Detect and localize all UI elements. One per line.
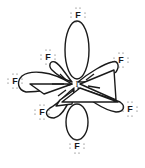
lone-pair-electron <box>45 49 46 50</box>
lone-pair-electron <box>75 21 76 22</box>
lone-pair-electron <box>12 87 13 88</box>
fluorine-axial-top: F <box>75 10 81 20</box>
lone-pair-electron <box>131 115 132 116</box>
lone-pair-electron <box>131 101 132 102</box>
lone-pair-electron <box>16 87 17 88</box>
lone-pair-electron <box>40 58 41 59</box>
lone-pair-electron <box>84 16 85 17</box>
fluorine-left: F <box>12 76 18 86</box>
fluorine-upper-left: F <box>45 52 51 62</box>
lone-pair-electron <box>49 49 50 50</box>
central-atom-label: I <box>76 79 79 89</box>
lone-pair-electron <box>69 143 70 144</box>
lone-pair-electron <box>43 118 44 119</box>
lone-pair-electron <box>136 106 137 107</box>
lone-pair-electron <box>70 12 71 13</box>
lone-pair-electron <box>122 66 123 67</box>
lone-pair-electron <box>84 12 85 13</box>
fluorine-upper-right: F <box>118 55 124 65</box>
lone-pair-electron <box>127 61 128 62</box>
lone-pair-electron <box>83 147 84 148</box>
lobe-axial-top <box>65 21 89 79</box>
lone-pair-electron <box>118 66 119 67</box>
lobe-axial-bottom <box>66 104 88 140</box>
lone-pair-electron <box>122 52 123 53</box>
lone-pair-electron <box>43 104 44 105</box>
lone-pair-electron <box>12 73 13 74</box>
lone-pair-electron <box>39 104 40 105</box>
lone-pair-electron <box>40 54 41 55</box>
lone-pair-electron <box>7 82 8 83</box>
lone-pair-electron <box>16 73 17 74</box>
lone-pair-electron <box>21 82 22 83</box>
lone-pair-electron <box>83 143 84 144</box>
lone-pair-electron <box>39 118 40 119</box>
lone-pair-electron <box>34 109 35 110</box>
fluorine-lower-left: F <box>39 107 45 117</box>
lone-pair-electron <box>7 78 8 79</box>
fluorine-axial-bottom: F <box>74 141 80 151</box>
lone-pair-electron <box>54 54 55 55</box>
lone-pair-electron <box>113 57 114 58</box>
lone-pair-electron <box>127 115 128 116</box>
lone-pair-electron <box>69 147 70 148</box>
lone-pair-electron <box>54 58 55 59</box>
lobe-left-wedge <box>30 84 72 94</box>
lone-pair-electron <box>79 7 80 8</box>
if7-orbital-diagram: I F F F F F F F <box>0 0 145 168</box>
lone-pair-electron <box>127 101 128 102</box>
lone-pair-electron <box>70 16 71 17</box>
lone-pair-electron <box>74 152 75 153</box>
lone-pair-electron <box>74 138 75 139</box>
lone-pair-electron <box>21 78 22 79</box>
lone-pair-electron <box>78 152 79 153</box>
lone-pair-electron <box>48 113 49 114</box>
lone-pair-electron <box>79 21 80 22</box>
lone-pair-electron <box>45 63 46 64</box>
lone-pair-electron <box>122 106 123 107</box>
lone-pair-electron <box>127 57 128 58</box>
lone-pair-electron <box>118 52 119 53</box>
lone-pair-electron <box>34 113 35 114</box>
lone-pair-electron <box>122 110 123 111</box>
lone-pair-electron <box>48 109 49 110</box>
lone-pair-electron <box>78 138 79 139</box>
lone-pair-electron <box>136 110 137 111</box>
lone-pair-electron <box>113 61 114 62</box>
fluorine-lower-right: F <box>127 104 133 114</box>
lone-pair-electron <box>49 63 50 64</box>
lone-pair-electron <box>75 7 76 8</box>
